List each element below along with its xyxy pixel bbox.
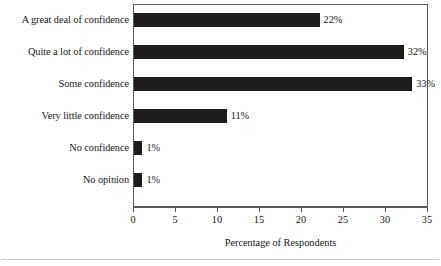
bar-5 (134, 173, 142, 187)
x-axis-title: Percentage of Respondents (133, 237, 428, 249)
bar-0 (134, 13, 320, 27)
x-axis-tick-label-6: 30 (380, 214, 390, 226)
bar-zone-0: 22% (134, 4, 441, 36)
table-row: A great deal of confidence 22% (0, 4, 441, 36)
category-label-3: Very little confidence (0, 110, 129, 122)
bar-value-label-1: 32% (408, 46, 427, 58)
x-axis-line: 0 5 10 15 20 25 30 35 (133, 207, 428, 208)
x-axis-tick-25 (343, 207, 344, 212)
x-axis-tick-20 (301, 207, 302, 212)
bar-chart-figure: A great deal of confidence 22% Quite a l… (0, 0, 441, 266)
x-axis-tick-label-1: 5 (172, 214, 177, 226)
table-row: No opinion 1% (0, 164, 441, 196)
table-row: Some confidence 33% (0, 68, 441, 100)
x-axis-tick-label-2: 10 (212, 214, 222, 226)
bar-value-label-5: 1% (146, 174, 160, 186)
table-row: Very little confidence 11% (0, 100, 441, 132)
bar-3 (134, 109, 227, 123)
category-label-2: Some confidence (0, 78, 129, 90)
bar-4 (134, 141, 142, 155)
category-label-0: A great deal of confidence (0, 14, 129, 26)
category-label-1: Quite a lot of confidence (0, 46, 129, 58)
category-label-4: No confidence (0, 142, 129, 154)
x-axis-tick-label-5: 25 (338, 214, 348, 226)
x-axis-tick-35 (427, 207, 428, 212)
x-axis-tick-5 (175, 207, 176, 212)
x-axis-tick-label-3: 15 (254, 214, 264, 226)
bar-zone-5: 1% (134, 164, 441, 196)
x-axis-tick-30 (385, 207, 386, 212)
x-axis-tick-15 (259, 207, 260, 212)
bar-zone-4: 1% (134, 132, 441, 164)
bar-value-label-3: 11% (231, 110, 250, 122)
bar-zone-1: 32% (134, 36, 441, 68)
x-axis-tick-label-7: 35 (422, 214, 432, 226)
x-axis-tick-0 (133, 207, 134, 212)
bar-value-label-2: 33% (416, 78, 435, 90)
table-row: Quite a lot of confidence 32% (0, 36, 441, 68)
footer-divider (2, 259, 439, 260)
bar-rows-container: A great deal of confidence 22% Quite a l… (0, 4, 441, 207)
x-axis-tick-label-0: 0 (130, 214, 135, 226)
x-axis-tick-label-4: 20 (296, 214, 306, 226)
bar-2 (134, 77, 412, 91)
bar-value-label-0: 22% (324, 14, 343, 26)
table-row: No confidence 1% (0, 132, 441, 164)
x-axis-tick-10 (217, 207, 218, 212)
bar-1 (134, 45, 404, 59)
bar-value-label-4: 1% (146, 142, 160, 154)
bar-zone-2: 33% (134, 68, 441, 100)
category-label-5: No opinion (0, 174, 129, 186)
bar-zone-3: 11% (134, 100, 441, 132)
